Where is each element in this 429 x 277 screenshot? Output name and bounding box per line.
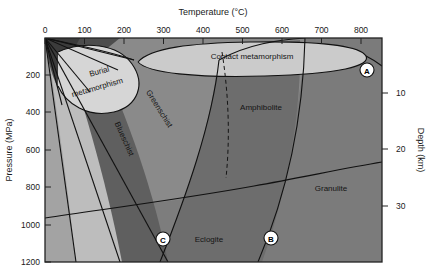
x-tick-100: 100 [77,25,91,35]
metamorphic-facies-diagram: Temperature (°C) 0 100 200 300 400 500 6… [0,0,429,277]
x-tick-300: 300 [156,25,170,35]
marker-a: A [360,63,374,77]
x-tick-600: 600 [275,25,289,35]
label-eclogite: Eclogite [195,235,224,244]
y-tick-1000: 1000 [21,220,40,230]
y-tick-400: 400 [26,107,40,117]
y-tick-800: 800 [26,182,40,192]
y-tick-200: 200 [26,70,40,80]
marker-a-label: A [364,67,370,76]
chart-figure: Temperature (°C) 0 100 200 300 400 500 6… [0,0,429,277]
x-tick-400: 400 [196,25,210,35]
x-tick-800: 800 [354,25,368,35]
marker-c-label: C [160,236,166,245]
label-amphibolite: Amphibolite [240,103,282,112]
x-tick-0: 0 [43,25,48,35]
y-tick-600: 600 [26,145,40,155]
x-tick-700: 700 [314,25,328,35]
y2-tick-10: 10 [396,88,406,98]
marker-b-label: B [268,235,274,244]
y2-tick-20: 20 [396,144,406,154]
label-granulite: Granulite [315,184,348,193]
x-axis-tick-labels: 0 100 200 300 400 500 600 700 800 [43,25,369,35]
plot-area: Contact metamorphism Burial metamorphism… [45,38,388,262]
y-tick-1200: 1200 [21,257,40,267]
y-axis-title: Pressure (MPa) [4,118,14,181]
y2-tick-30: 30 [396,201,406,211]
x-axis-title: Temperature (°C) [178,7,247,17]
x-tick-500: 500 [235,25,249,35]
x-tick-200: 200 [117,25,131,35]
y2-axis-title: Depth (km) [416,128,426,173]
label-contact-metamorphism: Contact metamorphism [211,52,294,61]
marker-b: B [264,231,278,245]
marker-c: C [156,232,170,246]
